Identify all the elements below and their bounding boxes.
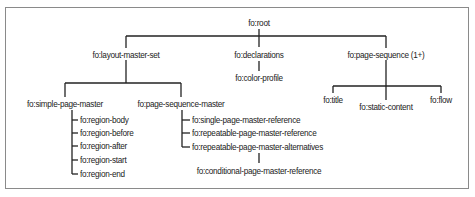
node-page-sequence-master: fo:page-sequence-master — [137, 98, 224, 109]
node-region-before: fo:region-before — [80, 127, 134, 138]
node-declarations: fo:declarations — [234, 49, 283, 60]
node-repeatable-page-master-alternatives: fo:repeatable-page-master-alternatives — [192, 141, 323, 152]
node-flow: fo:flow — [430, 94, 452, 105]
node-region-start: fo:region-start — [80, 154, 127, 165]
node-region-end: fo:region-end — [80, 168, 125, 179]
node-single-page-master-reference: fo:single-page-master-reference — [192, 114, 300, 125]
node-fo-root: fo:root — [248, 17, 269, 28]
node-region-after: fo:region-after — [80, 140, 127, 151]
node-region-body: fo:region-body — [80, 114, 129, 125]
node-repeatable-page-master-reference: fo:repeatable-page-master-reference — [192, 127, 316, 138]
node-color-profile: fo:color-profile — [235, 72, 283, 83]
node-layout-master-set: fo:layout-master-set — [92, 49, 159, 60]
node-simple-page-master: fo:simple-page-master — [27, 98, 103, 109]
node-static-content: fo:static-content — [359, 101, 412, 112]
node-title: fo:title — [323, 94, 343, 105]
node-conditional-page-master-reference: fo:conditional-page-master-reference — [197, 165, 322, 176]
node-page-sequence: fo:page-sequence (1+) — [347, 49, 424, 60]
